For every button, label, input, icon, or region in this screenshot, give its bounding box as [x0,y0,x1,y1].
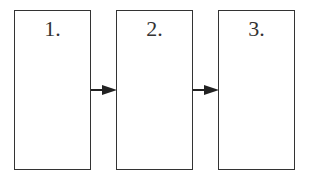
arrow-icon-2-to-3 [193,85,219,95]
connector-layer [0,0,311,183]
arrow-icon-1-to-2 [91,85,117,95]
